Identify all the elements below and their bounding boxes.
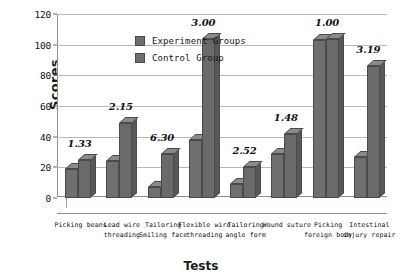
bar-face [271, 154, 284, 198]
bar-group: 2.15 [98, 14, 139, 198]
legend-item-experiment-groups: Experiment Groups [135, 36, 246, 46]
bar-face [313, 40, 326, 198]
bar-face [119, 123, 132, 198]
bar-group: 1.48 [263, 14, 304, 198]
bar-face [367, 66, 380, 198]
y-axis-tick-label: 0 [9, 193, 51, 204]
bar-control-group [243, 167, 256, 198]
bar-control-group [161, 154, 174, 198]
bar-face [243, 167, 256, 198]
bar-control-group [284, 134, 297, 198]
bar-chart: Scores 020406080100120 1.332.156.303.002… [0, 0, 402, 276]
bar-value-label: 6.30 [150, 132, 174, 143]
bar-face [65, 169, 78, 198]
bar-face [326, 39, 339, 198]
bar-group: 1.00 [305, 14, 346, 198]
y-axis-tick-label: 20 [9, 162, 51, 173]
bar-control-group [119, 123, 132, 198]
legend: Experiment Groups Control Group [135, 36, 246, 70]
y-axis-tick-label: 100 [9, 39, 51, 50]
y-axis-tick-label: 80 [9, 70, 51, 81]
x-axis-tick-labels: Picking beansLead wirethreadingTailoring… [57, 220, 387, 254]
bar-face [189, 140, 202, 198]
bar-experiment-groups [354, 157, 367, 198]
legend-swatch-icon [135, 36, 145, 46]
bar-experiment-groups [189, 140, 202, 198]
bar-experiment-groups [106, 161, 119, 198]
bar-face [106, 161, 119, 198]
bar-experiment-groups [230, 184, 243, 198]
bar-experiment-groups [313, 40, 326, 198]
y-axis-tick-label: 120 [9, 9, 51, 20]
x-axis-tick-label-line: Intestinal [338, 220, 400, 230]
legend-item-control-group: Control Group [135, 53, 246, 63]
bar-face [148, 187, 161, 198]
y-axis-tick-label: 60 [9, 101, 51, 112]
bar-value-label: 3.00 [191, 17, 215, 28]
bar-face [284, 134, 297, 198]
y-axis-tick-label: 40 [9, 131, 51, 142]
bar-group: 1.33 [57, 14, 98, 198]
x-axis-tick-label-line: injury repair [338, 230, 400, 240]
bar-experiment-groups [65, 169, 78, 198]
bar-control-group [78, 160, 91, 198]
bar-face [161, 154, 174, 198]
x-axis-tick-label: Intestinalinjury repair [338, 220, 400, 240]
bar-value-label: 1.00 [315, 17, 339, 28]
bar-value-label: 1.33 [67, 138, 91, 149]
legend-label: Control Group [152, 53, 224, 63]
x-axis-tick-label-line: angle form [215, 230, 277, 240]
legend-swatch-icon [135, 53, 145, 63]
bar-value-label: 2.52 [232, 145, 256, 156]
bar-group: 3.19 [346, 14, 387, 198]
bar-control-group [326, 39, 339, 198]
bar-value-label: 1.48 [274, 112, 298, 123]
bar-experiment-groups [271, 154, 284, 198]
bar-face [78, 160, 91, 198]
bar-face [230, 184, 243, 198]
x-axis-title: Tests [0, 259, 402, 273]
bar-control-group [367, 66, 380, 198]
legend-label: Experiment Groups [152, 36, 246, 46]
plot-area: 020406080100120 1.332.156.303.002.521.48… [57, 14, 387, 214]
bar-experiment-groups [148, 187, 161, 198]
bar-value-label: 2.15 [109, 101, 133, 112]
bar-value-label: 3.19 [356, 44, 380, 55]
bar-face [354, 157, 367, 198]
